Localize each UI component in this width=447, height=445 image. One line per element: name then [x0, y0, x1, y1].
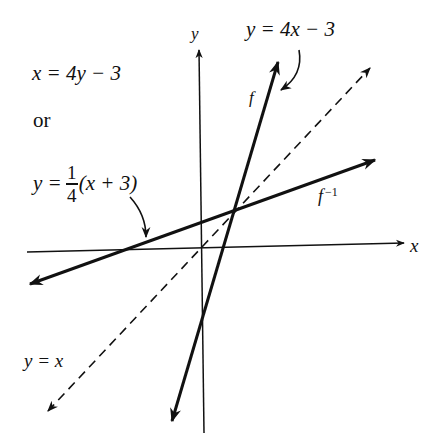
f-inverse-superscript: −1	[325, 185, 338, 199]
function-inverse-diagram: x = 4y − 3 or y = 1 4 (x + 3) y = 4x − 3…	[0, 0, 447, 445]
identity-line	[48, 68, 370, 411]
f-inverse-base: f	[318, 186, 323, 206]
inverse-equation-label: x = 4y − 3	[32, 63, 121, 84]
x-axis-label: x	[410, 236, 418, 255]
pointer-arrow-f	[281, 50, 300, 90]
f-inverse-label: f−1	[318, 186, 338, 205]
fraction-numerator: 1	[67, 163, 77, 182]
function-f-line	[172, 62, 278, 421]
identity-line-label: y = x	[24, 351, 63, 370]
fraction-denominator: 4	[67, 186, 77, 205]
inverse-solved-rhs: (x + 3)	[79, 173, 137, 194]
y-axis	[199, 50, 204, 433]
inverse-solved-lhs: y =	[33, 173, 62, 194]
fraction-one-quarter: 1 4	[66, 163, 78, 205]
inverse-solved-label: y = 1 4 (x + 3)	[33, 163, 137, 205]
y-axis-label: y	[191, 25, 199, 42]
or-label: or	[33, 110, 51, 131]
f-label: f	[249, 89, 254, 106]
x-axis	[27, 243, 404, 252]
function-equation-label: y = 4x − 3	[246, 19, 335, 40]
